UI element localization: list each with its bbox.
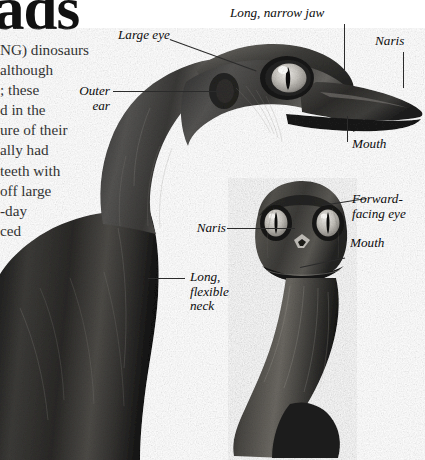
leader-line-naris-frontal — [227, 228, 295, 229]
leader-line-naris-lateral — [403, 52, 404, 88]
leader-line-long-narrow-jaw — [344, 24, 345, 70]
callout-long-narrow-jaw: Long, narrow jaw — [230, 6, 324, 21]
callout-forward-facing-eye: Forward- facing eye — [352, 192, 406, 221]
leader-line-outer-ear — [113, 91, 228, 92]
callout-outer-ear: Outer ear — [58, 84, 110, 113]
callout-naris-lateral: Naris — [375, 34, 404, 49]
leader-line-long-flexible-neck — [148, 278, 185, 279]
callout-mouth-frontal: Mouth — [350, 236, 384, 251]
callout-large-eye: Large eye — [118, 28, 170, 43]
callout-long-flexible-neck: Long, flexible neck — [190, 270, 229, 314]
callout-naris-frontal: Naris — [184, 221, 226, 236]
callout-mouth-lateral: Mouth — [352, 137, 386, 152]
leader-line-mouth-lateral — [347, 116, 348, 142]
document-page: ads NG) dinosaurs although ; these d in … — [0, 0, 425, 460]
